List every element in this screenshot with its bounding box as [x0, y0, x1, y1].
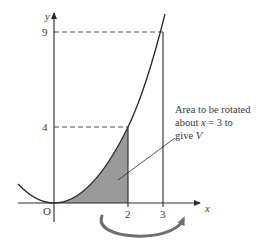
- annotation-line-2: about x = 3 to: [175, 117, 233, 128]
- y-axis-label: y: [44, 10, 50, 22]
- y-tick-4: 4: [42, 121, 48, 133]
- annotation-line-3: give V: [175, 130, 204, 141]
- origin-label: O: [43, 205, 51, 217]
- rotation-arrow: [101, 216, 183, 236]
- y-tick-9: 9: [42, 26, 48, 38]
- parabola-curve: [18, 14, 165, 203]
- shaded-area: [54, 127, 128, 203]
- x-axis-label: x: [204, 202, 210, 214]
- x-tick-3: 3: [160, 208, 166, 220]
- annotation-line-1: Area to be rotated: [175, 104, 251, 115]
- rotation-volume-diagram: y x O 9 4 2 3 Area to be rotated about x…: [0, 0, 263, 249]
- x-tick-2: 2: [125, 208, 131, 220]
